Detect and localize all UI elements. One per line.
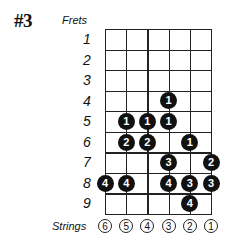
finger-dot: 2 xyxy=(203,154,220,171)
fret-line xyxy=(105,152,212,153)
fret-number: 2 xyxy=(80,52,94,68)
fret-line xyxy=(105,193,212,194)
fret-number: 4 xyxy=(80,93,94,109)
fret-number: 5 xyxy=(80,113,94,129)
finger-dot: 3 xyxy=(181,175,198,192)
finger-dot: 2 xyxy=(118,134,135,151)
fret-number: 9 xyxy=(80,195,94,211)
string-number: 2 xyxy=(183,219,197,233)
fret-line xyxy=(105,91,212,92)
frets-label: Frets xyxy=(62,14,87,26)
finger-dot: 4 xyxy=(118,175,135,192)
fret-line xyxy=(105,111,212,112)
finger-dot: 1 xyxy=(181,134,198,151)
string-number: 3 xyxy=(162,219,176,233)
fret-number: 8 xyxy=(80,175,94,191)
string-number: 4 xyxy=(140,219,154,233)
diagram-title: #3 xyxy=(14,10,32,32)
finger-dot: 1 xyxy=(160,113,177,130)
fret-number: 1 xyxy=(80,31,94,47)
fret-line xyxy=(105,70,212,71)
finger-dot: 1 xyxy=(118,113,135,130)
fret-number: 6 xyxy=(80,134,94,150)
fret-line xyxy=(105,173,212,174)
string-number: 6 xyxy=(98,219,112,233)
finger-dot: 1 xyxy=(139,113,156,130)
finger-dot: 4 xyxy=(160,175,177,192)
fret-number: 7 xyxy=(80,154,94,170)
fret-line xyxy=(105,132,212,133)
finger-dot: 4 xyxy=(97,175,114,192)
fret-number: 3 xyxy=(80,72,94,88)
string-number: 1 xyxy=(204,219,218,233)
finger-dot: 2 xyxy=(139,134,156,151)
finger-dot: 3 xyxy=(203,175,220,192)
string-number: 5 xyxy=(119,219,133,233)
fret-line xyxy=(105,214,212,215)
strings-label: Strings xyxy=(52,220,86,232)
fret-line xyxy=(105,50,212,51)
fret-line xyxy=(105,29,212,30)
